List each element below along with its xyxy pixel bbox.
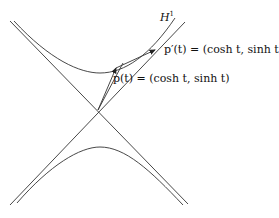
diagram-graphic	[0, 0, 279, 218]
asymptote-line-2	[10, 22, 185, 205]
velocity-label: p′(t) = (cosh t, sinh t)	[164, 43, 279, 56]
hyperbola-diagram: H1 p′(t) = (cosh t, sinh t) p(t) = (cosh…	[0, 0, 279, 218]
position-label: p(t) = (cosh t, sinh t)	[113, 72, 230, 85]
hyperbola-label: H1	[160, 10, 174, 24]
upper-branch	[14, 18, 175, 73]
translated-tangent-vector	[98, 63, 123, 110]
lower-branch	[17, 147, 183, 205]
